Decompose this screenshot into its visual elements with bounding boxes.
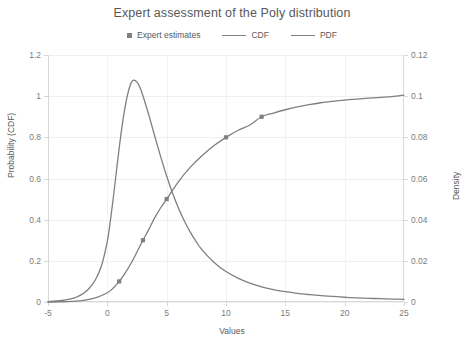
x-axis-tick	[345, 302, 346, 306]
x-axis-title: Values	[0, 326, 464, 336]
y-axis-right-tick-label: 0	[411, 297, 416, 307]
x-axis-tick-label: 20	[340, 308, 349, 318]
legend-item-expert-estimates: Expert estimates	[127, 30, 200, 40]
legend-item-cdf: CDF	[222, 30, 268, 40]
y-axis-right-tick-label: 0.02	[411, 256, 428, 266]
x-axis-tick-label: 10	[221, 308, 230, 318]
y-axis-right-tick	[404, 96, 408, 97]
x-axis-tick-label: 25	[399, 308, 408, 318]
x-axis-tick-label: -5	[44, 308, 52, 318]
y-axis-right-tick-label: 0.04	[411, 215, 428, 225]
y-axis-right-title: Density	[451, 172, 461, 200]
data-series-layer	[48, 55, 404, 302]
y-axis-left-tick-label: 1.2	[29, 50, 41, 60]
y-axis-right-tick	[404, 220, 408, 221]
x-axis-tick	[285, 302, 286, 306]
x-axis-tick	[107, 302, 108, 306]
y-axis-left-tick-label: 0.6	[29, 174, 41, 184]
legend-item-pdf: PDF	[291, 30, 337, 40]
chart-legend: Expert estimates CDF PDF	[0, 30, 464, 40]
y-axis-left-tick-label: 0.4	[29, 215, 41, 225]
chart-title: Expert assessment of the Poly distributi…	[0, 6, 464, 20]
legend-line-icon	[222, 35, 246, 36]
y-axis-left-tick-label: 0.8	[29, 132, 41, 142]
y-axis-left-tick-label: 0	[36, 297, 41, 307]
y-axis-right-tick-label: 0.12	[411, 50, 428, 60]
x-axis-tick	[167, 302, 168, 306]
legend-line-icon	[291, 35, 315, 36]
x-axis-tick-label: 0	[105, 308, 110, 318]
chart-container: Expert assessment of the Poly distributi…	[0, 0, 464, 347]
y-axis-left-title: Probability (CDF)	[6, 113, 16, 178]
y-axis-right-tick	[404, 137, 408, 138]
legend-label: Expert estimates	[137, 30, 200, 40]
x-axis-tick-label: 15	[281, 308, 290, 318]
y-axis-right-tick-label: 0.08	[411, 132, 428, 142]
plot-area: 00.20.40.60.811.200.020.040.060.080.10.1…	[48, 55, 404, 302]
x-axis-tick-label: 5	[164, 308, 169, 318]
y-axis-right-tick	[404, 261, 408, 262]
y-axis-right-tick-label: 0.06	[411, 174, 428, 184]
y-axis-left-tick-label: 0.2	[29, 256, 41, 266]
y-axis-right-tick	[404, 179, 408, 180]
y-axis-left-tick-label: 1	[36, 91, 41, 101]
series-line-pdf	[48, 80, 404, 301]
y-axis-right-tick	[404, 55, 408, 56]
x-axis-tick	[404, 302, 405, 306]
x-axis-tick	[226, 302, 227, 306]
legend-label: CDF	[251, 30, 268, 40]
legend-label: PDF	[320, 30, 337, 40]
legend-marker-icon	[127, 33, 132, 38]
y-axis-right-tick-label: 0.1	[411, 91, 423, 101]
